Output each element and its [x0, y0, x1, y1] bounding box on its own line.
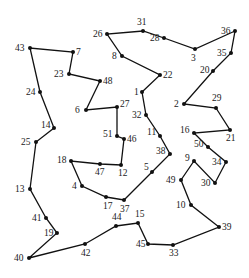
- node-45: [146, 242, 150, 246]
- node-label: 3: [191, 53, 196, 63]
- node-20: [211, 69, 215, 73]
- node-40: [27, 256, 31, 260]
- node-48: [98, 79, 102, 83]
- node-28: [162, 36, 166, 40]
- node-label: 40: [14, 253, 24, 263]
- node-17: [104, 195, 108, 199]
- node-12: [119, 163, 123, 167]
- node-29: [214, 106, 218, 110]
- node-label: 13: [15, 184, 25, 194]
- node-label: 29: [212, 93, 222, 103]
- node-label: 7: [76, 47, 81, 57]
- node-42: [83, 242, 87, 246]
- node-33: [171, 243, 175, 247]
- node-19: [55, 231, 59, 235]
- node-4: [80, 184, 84, 188]
- node-6: [84, 108, 88, 112]
- node-14: [52, 126, 56, 130]
- node-label: 34: [212, 157, 222, 167]
- node-label: 22: [163, 70, 173, 80]
- node-13: [28, 187, 32, 191]
- node-label: 28: [150, 33, 160, 43]
- node-label: 18: [57, 155, 67, 165]
- node-label: 32: [132, 110, 142, 120]
- node-34: [224, 160, 228, 164]
- node-label: 10: [176, 200, 186, 210]
- node-label: 45: [136, 239, 146, 249]
- node-label: 4: [72, 181, 77, 191]
- node-18: [69, 159, 73, 163]
- node-22: [158, 73, 162, 77]
- node-8: [120, 54, 124, 58]
- node-label: 25: [21, 137, 31, 147]
- node-label: 50: [194, 139, 204, 149]
- node-32: [144, 113, 148, 117]
- node-41: [44, 216, 48, 220]
- node-label: 39: [222, 222, 232, 232]
- node-label: 15: [135, 209, 145, 219]
- node-label: 1: [134, 87, 139, 97]
- node-30: [213, 181, 217, 185]
- node-9: [192, 159, 196, 163]
- node-1: [140, 90, 144, 94]
- node-11: [158, 134, 162, 138]
- node-label: 43: [15, 43, 25, 53]
- node-35: [229, 51, 233, 55]
- node-label: 11: [147, 127, 156, 137]
- node-23: [67, 72, 71, 76]
- node-label: 46: [127, 134, 137, 144]
- node-label: 2: [174, 99, 179, 109]
- node-5: [150, 170, 154, 174]
- node-label: 35: [217, 48, 227, 58]
- node-36: [233, 29, 237, 33]
- node-49: [179, 178, 183, 182]
- tsp-tour-diagram: 1234567891011121314151617181920212223242…: [0, 0, 249, 278]
- node-label: 23: [54, 69, 64, 79]
- node-label: 36: [221, 26, 231, 36]
- node-50: [206, 145, 210, 149]
- node-label: 30: [201, 178, 211, 188]
- node-label: 31: [137, 17, 147, 27]
- node-3: [193, 47, 197, 51]
- node-label: 24: [26, 87, 36, 97]
- node-label: 17: [103, 201, 113, 211]
- node-label: 26: [93, 29, 103, 39]
- node-label: 42: [81, 248, 91, 258]
- node-label: 20: [200, 65, 210, 75]
- node-label: 48: [103, 76, 113, 86]
- node-label: 16: [180, 125, 190, 135]
- node-25: [34, 140, 38, 144]
- node-label: 49: [166, 175, 176, 185]
- node-27: [115, 105, 119, 109]
- node-label: 44: [112, 212, 122, 222]
- node-37: [122, 198, 126, 202]
- node-label: 19: [44, 228, 54, 238]
- node-39: [217, 225, 221, 229]
- node-21: [228, 128, 232, 132]
- node-label: 8: [112, 51, 117, 61]
- node-7: [71, 50, 75, 54]
- node-47: [98, 162, 102, 166]
- node-label: 51: [103, 129, 113, 139]
- node-31: [141, 29, 145, 33]
- node-label: 6: [75, 105, 80, 115]
- node-38: [168, 152, 172, 156]
- node-24: [38, 90, 42, 94]
- node-label: 33: [169, 248, 179, 258]
- node-label: 9: [185, 153, 190, 163]
- node-label: 38: [156, 146, 166, 156]
- node-15: [136, 221, 140, 225]
- node-16: [192, 131, 196, 135]
- node-26: [105, 32, 109, 36]
- node-46: [122, 137, 126, 141]
- node-label: 47: [95, 167, 105, 177]
- node-44: [114, 224, 118, 228]
- node-label: 14: [41, 120, 51, 130]
- node-label: 5: [144, 162, 149, 172]
- node-label: 41: [32, 213, 42, 223]
- node-10: [189, 203, 193, 207]
- node-43: [28, 46, 32, 50]
- node-label: 21: [226, 133, 236, 143]
- node-2: [182, 102, 186, 106]
- node-label: 12: [118, 168, 128, 178]
